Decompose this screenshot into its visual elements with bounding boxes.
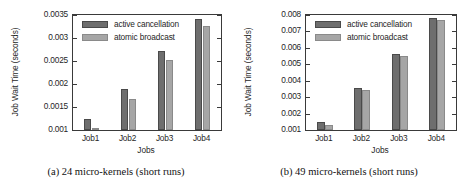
y-axis-tick-mark: [73, 61, 77, 62]
legend-label: active cancellation: [114, 19, 179, 29]
panel-caption-b: (b) 49 micro-kernels (short runs): [233, 166, 465, 177]
bar: [400, 56, 408, 130]
panel-caption-a: (a) 24 micro-kernels (short runs): [0, 166, 232, 177]
y-axis-tick-label: 0.007: [281, 25, 301, 35]
bar: [84, 119, 92, 130]
legend-label: active cancellation: [347, 19, 412, 29]
x-axis-tick-label: Job1: [315, 133, 332, 143]
y-axis-tick-mark: [73, 38, 77, 39]
bar: [166, 60, 174, 130]
y-axis-tick-label: 0.002: [281, 108, 301, 118]
bar: [129, 99, 137, 130]
bar: [195, 19, 203, 130]
bar: [158, 51, 166, 130]
x-axis-tick-label: Job3: [390, 133, 407, 143]
legend-entry: atomic broadcast: [82, 32, 179, 42]
bar: [317, 122, 325, 130]
y-axis-tick-mark: [306, 81, 310, 82]
y-axis-tick-mark: [452, 64, 456, 65]
x-axis-title-a: Jobs: [72, 145, 220, 155]
y-axis-tick-mark: [73, 130, 77, 131]
y-axis-tick-label: 0.008: [281, 9, 301, 19]
y-axis-tick-label: 0.003: [281, 91, 301, 101]
legend-swatch-icon: [315, 34, 341, 41]
x-axis-tick-label: Job4: [193, 133, 210, 143]
y-axis-tick-mark: [452, 130, 456, 131]
y-axis-tick-label: 0.006: [281, 42, 301, 52]
figure-container: Job Wait Time (seconds) 0.0010.00150.002…: [0, 0, 465, 195]
bar: [203, 26, 211, 130]
y-axis-tick-label: 0.0015: [44, 101, 68, 111]
y-axis-title-text-a: Job Wait Time (seconds): [10, 28, 20, 117]
y-axis-tick-mark: [217, 130, 221, 131]
y-axis-tick-label: 0.001: [281, 124, 301, 134]
y-axis-tick-mark: [452, 31, 456, 32]
legend-swatch-icon: [82, 34, 108, 41]
legend-entry: active cancellation: [82, 19, 179, 29]
y-axis-tick-mark: [452, 81, 456, 82]
y-axis-tick-mark: [217, 15, 221, 16]
y-axis-tick-mark: [217, 61, 221, 62]
y-axis-tick-mark: [217, 84, 221, 85]
x-axis-tick-label: Job3: [156, 133, 173, 143]
x-axis-tick-label: Job1: [82, 133, 99, 143]
y-axis-tick-mark: [306, 31, 310, 32]
y-axis-tick-label: 0.004: [281, 75, 301, 85]
y-axis-tick-mark: [452, 97, 456, 98]
y-axis-tick-mark: [452, 48, 456, 49]
y-axis-tick-label: 0.002: [48, 78, 68, 88]
bar: [121, 89, 129, 130]
bar: [325, 125, 333, 130]
chart-panel-b: Job Wait Time (seconds) 0.0010.0020.0030…: [233, 0, 465, 195]
x-axis-ticks-b: Job1Job2Job3Job4: [305, 133, 455, 145]
legend-entry: atomic broadcast: [315, 32, 412, 42]
y-axis-ticks-b: 0.0010.0020.0030.0040.0050.0060.0070.008: [255, 10, 303, 135]
y-axis-ticks-a: 0.0010.00150.0020.00250.0030.0035: [22, 10, 70, 135]
bar: [354, 88, 362, 130]
legend-entry: active cancellation: [315, 19, 412, 29]
y-axis-tick-mark: [73, 84, 77, 85]
y-axis-tick-label: 0.001: [48, 124, 68, 134]
y-axis-title-b: Job Wait Time (seconds): [241, 12, 255, 132]
chart-panel-a: Job Wait Time (seconds) 0.0010.00150.002…: [0, 0, 232, 195]
x-axis-title-b: Jobs: [305, 145, 455, 155]
legend-swatch-icon: [315, 21, 341, 28]
legend-label: atomic broadcast: [347, 32, 408, 42]
bar: [392, 54, 400, 130]
y-axis-tick-mark: [73, 15, 77, 16]
plot-area-a: active cancellation atomic broadcast: [72, 14, 222, 131]
y-axis-tick-mark: [452, 114, 456, 115]
plot-area-b: active cancellation atomic broadcast: [305, 14, 457, 131]
y-axis-tick-label: 0.0035: [44, 9, 68, 19]
y-axis-tick-mark: [306, 97, 310, 98]
bar: [437, 20, 445, 130]
y-axis-tick-label: 0.005: [281, 58, 301, 68]
y-axis-title-text-b: Job Wait Time (seconds): [243, 28, 253, 117]
bar: [429, 18, 437, 130]
y-axis-tick-mark: [217, 107, 221, 108]
y-axis-title-a: Job Wait Time (seconds): [8, 12, 22, 132]
y-axis-tick-mark: [306, 15, 310, 16]
x-axis-ticks-a: Job1Job2Job3Job4: [72, 133, 220, 145]
y-axis-tick-label: 0.0025: [44, 55, 68, 65]
legend-label: atomic broadcast: [114, 32, 175, 42]
x-axis-tick-label: Job2: [353, 133, 370, 143]
legend-b: active cancellation atomic broadcast: [315, 19, 412, 42]
y-axis-tick-mark: [73, 107, 77, 108]
y-axis-tick-mark: [306, 114, 310, 115]
legend-a: active cancellation atomic broadcast: [82, 19, 179, 42]
bar: [362, 90, 370, 130]
y-axis-tick-mark: [306, 48, 310, 49]
y-axis-tick-mark: [306, 130, 310, 131]
x-axis-tick-label: Job4: [428, 133, 445, 143]
y-axis-tick-mark: [452, 15, 456, 16]
bar-group: [184, 15, 221, 130]
bar-group: [419, 15, 457, 130]
y-axis-tick-mark: [217, 38, 221, 39]
y-axis-tick-label: 0.003: [48, 32, 68, 42]
y-axis-tick-mark: [306, 64, 310, 65]
x-axis-tick-label: Job2: [119, 133, 136, 143]
bar: [92, 128, 100, 130]
legend-swatch-icon: [82, 21, 108, 28]
